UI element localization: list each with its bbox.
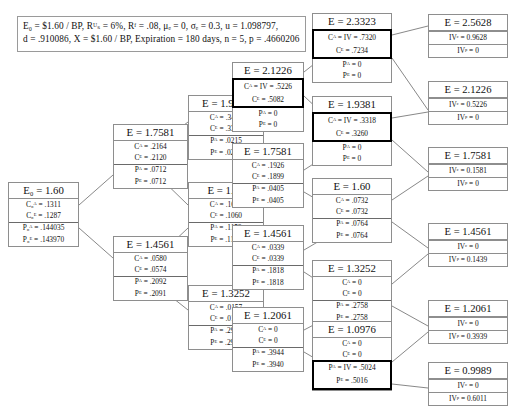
binomial-lattice-diagram: E₀ = $1.60 / BP, Rᵁₛ = 6%, Rᶠ = .08, μₑ …	[0, 0, 520, 414]
node-put-group: Pᴬ = .0712 Pᴱ = .0712	[114, 164, 187, 188]
node-value-row: Pᴱ = .0712	[114, 176, 187, 187]
intrinsic-value-call: IVᶜ = 0.5226	[429, 98, 507, 111]
node-put-group: Pᴬ = .0764 Pᴱ = .0764	[313, 218, 391, 242]
node-value-row: Pᴬ = 0	[313, 59, 391, 70]
node-value-row: Cᴱ = .3260	[314, 127, 390, 140]
terminal-node-5[interactable]: E = 1.2061 IVᶜ = 0 IVᵖ = 0.3939	[428, 300, 508, 344]
node-title: E = 1.7581	[114, 125, 187, 141]
node-value-row: Pᴬ = 0	[313, 142, 391, 153]
node-value-row: Pᴱ = .0405	[233, 195, 303, 206]
node-value-row: Pᴬ = .0764	[313, 219, 391, 230]
intrinsic-value-call: IVᶜ = 0	[429, 240, 507, 253]
node-value-row: Pᴬ = .1818	[233, 266, 303, 277]
node-put-group: Pᴬ = .3944 Pᴱ = .3940	[233, 347, 303, 371]
node-call-group: Cᴬ = .0732 Cᴱ = .0732	[313, 195, 391, 218]
lattice-node-4c[interactable]: E = 1.60 Cᴬ = .0732 Cᴱ = .0732 Pᴬ = .076…	[312, 178, 392, 243]
node-title: E = 1.4561	[233, 226, 303, 242]
node-put-group: Pᴬ = 0 Pᴱ = 0	[313, 142, 391, 165]
terminal-node-6[interactable]: E = 0.9989 IVᶜ = 0 IVᵖ = 0.6011	[428, 362, 508, 406]
intrinsic-value-put: IVᵖ = 0	[429, 111, 507, 124]
node-value-row: Cᴱ = .0732	[313, 207, 391, 218]
node-value-row: Cᴬ = 0	[313, 277, 391, 288]
node-value-row: Pᴱ = 0	[233, 120, 303, 131]
node-put-group: Pᴬ = .2092 Pᴱ = .2091	[114, 276, 187, 300]
node-value-row: Cᴬ = 0	[233, 324, 303, 335]
intrinsic-value-put: IVᵖ = 0.6011	[429, 392, 507, 405]
node-value-row: Pᴱ = 0	[313, 154, 391, 165]
intrinsic-value-put: IVᵖ = 0	[429, 44, 507, 57]
lattice-node-1d[interactable]: E = 1.4561 Cᴬ = .0580 Cᴱ = .0574 Pᴬ = .2…	[113, 236, 188, 301]
node-title: E = 1.9381	[313, 97, 391, 113]
node-call-group: Cᴬ = .1926 Cᴱ = .1899	[233, 160, 303, 183]
node-call-group-highlighted: Cᴬ = IV = .5226 Cᴱ = .5082	[232, 78, 304, 108]
node-title: E = 2.3323	[313, 14, 391, 30]
node-title: E = 1.0976	[313, 322, 391, 338]
lattice-node-3c[interactable]: E = 1.4561 Cᴬ = .0339 Cᴱ = .0339 Pᴬ = .1…	[232, 225, 304, 290]
node-value-row: P₀ᴬ = .144035	[9, 223, 78, 234]
node-value-row: Cᴬ = .0732	[313, 195, 391, 206]
node-put-group: Pᴬ = .1818 Pᴱ = .1818	[233, 265, 303, 289]
node-value-row: C₀ᴬ = .1311	[9, 199, 78, 210]
intrinsic-value-call: IVᶜ = 0	[429, 379, 507, 392]
node-value-row: Pᴱ = .1818	[233, 277, 303, 288]
lattice-node-4b[interactable]: E = 1.9381 Cᴬ = IV = .3318 Cᴱ = .3260 Pᴬ…	[312, 96, 392, 166]
terminal-node-3[interactable]: E = 1.7581 IVᶜ = 0.1581 IVᵖ = 0	[428, 147, 508, 191]
intrinsic-value-put: IVᵖ = 0.1439	[429, 253, 507, 266]
terminal-node-4[interactable]: E = 1.4561 IVᶜ = 0 IVᵖ = 0.1439	[428, 223, 508, 267]
lattice-node-3a[interactable]: E = 2.1226 Cᴬ = IV = .5226 Cᴱ = .5082 Pᴬ…	[232, 62, 304, 132]
node-value-row: Pᴬ = .0712	[114, 165, 187, 176]
node-call-group-highlighted: Cᴬ = IV = .3318 Cᴱ = .3260	[312, 112, 392, 142]
node-value-row: Pᴱ = .0764	[313, 230, 391, 241]
node-value-row: Cᴱ = 0	[313, 289, 391, 300]
node-value-row: P₀ᴱ = .143970	[9, 234, 78, 245]
node-value-row: Cᴬ = IV = .7320	[314, 31, 390, 44]
node-value-row: Cᴱ = .0574	[114, 265, 187, 276]
node-value-row: Pᴬ = 0	[233, 108, 303, 119]
lattice-node-4e[interactable]: E = 1.0976 Cᴬ = 0 Cᴱ = 0 Pᴬ = IV = .5024…	[312, 321, 392, 391]
node-call-group-highlighted: Cᴬ = IV = .7320 Cᴱ = .7234	[312, 29, 392, 59]
node-value-row: Pᴱ = .5016	[314, 375, 390, 388]
intrinsic-value-put: IVᵖ = 0	[429, 177, 507, 190]
lattice-node-3d[interactable]: E = 1.2061 Cᴬ = 0 Cᴱ = 0 Pᴬ = .3944 Pᴱ =…	[232, 307, 304, 372]
lattice-node-4a[interactable]: E = 2.3323 Cᴬ = IV = .7320 Cᴱ = .7234 Pᴬ…	[312, 13, 392, 83]
lattice-node-3b[interactable]: E = 1.7581 Cᴬ = .1926 Cᴱ = .1899 Pᴬ = .0…	[232, 143, 304, 208]
intrinsic-value-call: IVᶜ = 0	[429, 317, 507, 330]
node-value-row: Cᴱ = .2120	[114, 153, 187, 164]
intrinsic-value-call: IVᶜ = 0.1581	[429, 164, 507, 177]
node-value-row: Cᴱ = .1899	[233, 172, 303, 183]
node-value-row: Pᴬ = .3944	[233, 348, 303, 359]
lattice-node-4d[interactable]: E = 1.3252 Cᴬ = 0 Cᴱ = 0 Pᴬ = .2758 Pᴱ =…	[312, 260, 392, 325]
node-value-row: Pᴱ = .3940	[233, 359, 303, 370]
node-value-row: Pᴬ = .0405	[233, 184, 303, 195]
lattice-node-root[interactable]: E₀ = 1.60 C₀ᴬ = .1311 C₀ᴱ = .1287 P₀ᴬ = …	[8, 182, 79, 247]
node-value-row: Pᴬ = IV = .5024	[314, 362, 390, 375]
node-call-group: Cᴬ = .0580 Cᴱ = .0574	[114, 253, 187, 276]
node-call-group: C₀ᴬ = .1311 C₀ᴱ = .1287	[9, 199, 78, 222]
node-value-row: C₀ᴱ = .1287	[9, 211, 78, 222]
node-value-row: Pᴱ = 0	[313, 71, 391, 82]
node-title: E₀ = 1.60	[9, 183, 78, 199]
node-title: E = 1.2061	[233, 308, 303, 324]
node-value-row: Cᴱ = .1060	[189, 211, 263, 222]
node-title: E = 0.9989	[429, 363, 507, 379]
parameters-header: E₀ = $1.60 / BP, Rᵁₛ = 6%, Rᶠ = .08, μₑ …	[17, 16, 306, 52]
node-title: E = 1.7581	[429, 148, 507, 164]
terminal-node-1[interactable]: E = 2.5628 IVᶜ = 0.9628 IVᵖ = 0	[428, 14, 508, 58]
node-title: E = 1.3252	[313, 261, 391, 277]
node-put-group: Pᴬ = 0 Pᴱ = 0	[313, 59, 391, 82]
node-title: E = 1.60	[313, 179, 391, 195]
node-title: E = 1.4561	[429, 224, 507, 240]
parameters-line-1: E₀ = $1.60 / BP, Rᵁₛ = 6%, Rᶠ = .08, μₑ …	[23, 20, 300, 33]
terminal-node-2[interactable]: E = 2.1226 IVᶜ = 0.5226 IVᵖ = 0	[428, 81, 508, 125]
node-title: E = 1.7581	[233, 144, 303, 160]
intrinsic-value-put: IVᵖ = 0.3939	[429, 330, 507, 343]
node-value-row: Pᴱ = .2091	[114, 288, 187, 299]
node-call-group: Cᴬ = 0 Cᴱ = 0	[313, 277, 391, 300]
lattice-node-1u[interactable]: E = 1.7581 Cᴬ = .2164 Cᴱ = .2120 Pᴬ = .0…	[113, 124, 188, 189]
node-value-row: Cᴬ = .1926	[233, 160, 303, 171]
node-value-row: Cᴱ = .5082	[234, 93, 302, 106]
node-title: E = 2.5628	[429, 15, 507, 31]
parameters-line-2: d = .910086, X = $1.60 / BP, Expiration …	[23, 33, 300, 46]
node-call-group: Cᴬ = .0339 Cᴱ = .0339	[233, 242, 303, 265]
node-title: E = 1.2061	[429, 301, 507, 317]
